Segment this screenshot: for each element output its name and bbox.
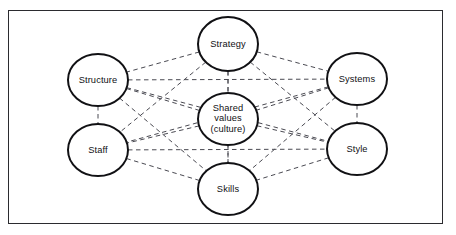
- node-style[interactable]: [327, 123, 387, 175]
- link-structure-to-systems: [128, 79, 327, 80]
- link-shared-values-to-style: [257, 126, 328, 143]
- link-style-to-skills: [256, 158, 329, 180]
- link-staff-to-skills: [126, 159, 199, 181]
- node-structure[interactable]: [68, 54, 128, 106]
- diagram-canvas: [0, 0, 456, 235]
- node-skills[interactable]: [198, 163, 258, 215]
- link-structure-to-skills: [120, 98, 207, 171]
- node-shared-values[interactable]: [198, 93, 258, 145]
- link-strategy-to-systems: [257, 52, 329, 71]
- node-staff[interactable]: [68, 124, 128, 176]
- link-strategy-to-staff: [120, 62, 206, 132]
- link-systems-to-shared-values: [256, 88, 329, 110]
- seven-s-diagram: StrategyStructureSystemsShared values (c…: [0, 0, 456, 235]
- link-strategy-to-style: [250, 62, 335, 131]
- node-systems[interactable]: [327, 53, 387, 105]
- link-strategy-to-structure: [127, 52, 200, 72]
- link-structure-to-shared-values: [126, 89, 199, 111]
- node-strategy[interactable]: [198, 17, 258, 71]
- node-layer: [68, 17, 387, 215]
- link-staff-to-style: [128, 149, 327, 150]
